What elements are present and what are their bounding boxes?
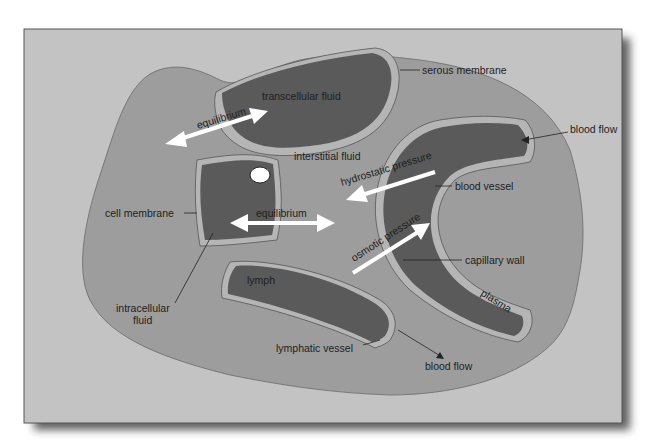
- lymphatic-vessel-label: lymphatic vessel: [276, 342, 353, 354]
- fluid-compartments-diagram: transcellular fluid interstitial fluid i…: [0, 0, 654, 448]
- serous-membrane-label: serous membrane: [422, 64, 507, 76]
- transcellular-fluid-label: transcellular fluid: [262, 90, 341, 102]
- intracellular-fluid-label-line1: intracellular: [116, 302, 170, 314]
- lymph-label: lymph: [247, 274, 275, 286]
- blood-vessel-label: blood vessel: [455, 180, 513, 192]
- interstitial-fluid-label: interstitial fluid: [294, 150, 361, 162]
- equilibrium-middle-label: equilibrium: [256, 207, 307, 219]
- cell-membrane-label: cell membrane: [105, 207, 174, 219]
- intracellular-fluid-label-line2: fluid: [133, 314, 152, 326]
- cell-nucleus: [250, 167, 270, 183]
- blood-flow-bottom-label: blood flow: [425, 360, 473, 372]
- blood-flow-top-label: blood flow: [570, 123, 618, 135]
- capillary-wall-label: capillary wall: [465, 254, 525, 266]
